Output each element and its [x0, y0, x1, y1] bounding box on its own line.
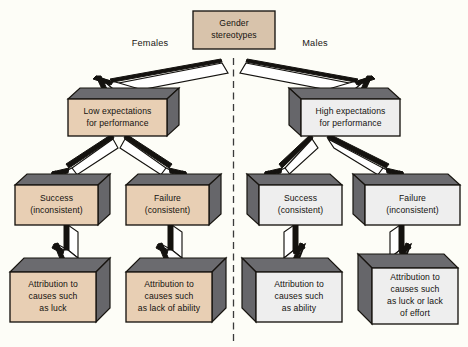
- node-attribution-luck-or-lack-of-effort-line-4: of effort: [400, 308, 430, 318]
- box-top-face: [126, 258, 226, 272]
- node-attribution-ability-line-1: Attribution to: [274, 279, 324, 289]
- node-attribution-ability-line-2: causes such: [275, 291, 324, 301]
- box-top-face: [126, 174, 221, 185]
- diagram-canvas: Females Males Gender stereotypes: [0, 0, 468, 347]
- node-male-failure: Failure (inconsistent): [353, 174, 460, 225]
- node-attribution-luck-or-lack-of-effort-line-3: as luck or lack: [387, 296, 444, 306]
- node-male-failure-line-2: (inconsistent): [386, 205, 439, 215]
- node-attribution-luck: Attribution to causes such as luck: [10, 258, 110, 322]
- node-attribution-ability-line-3: as ability: [282, 303, 317, 313]
- node-low-expectations: Low expectations for performance: [68, 88, 179, 136]
- node-female-failure-line-2: (consistent): [145, 205, 191, 215]
- node-attribution-ability: Attribution to causes such as ability: [242, 258, 342, 322]
- node-low-expectations-line-2: for performance: [86, 118, 148, 128]
- box-top-face: [247, 174, 342, 185]
- node-attribution-luck-line-1: Attribution to: [28, 279, 78, 289]
- branch-label-females: Females: [132, 38, 169, 48]
- node-attribution-lack-of-ability-line-3: as lack of ability: [138, 303, 201, 313]
- box-top-face: [10, 258, 110, 272]
- box-top-face: [242, 258, 342, 272]
- box-top-face: [15, 174, 110, 185]
- node-attribution-luck-or-lack-of-effort-line-2: causes such: [391, 284, 440, 294]
- node-attribution-lack-of-ability-line-2: causes such: [145, 291, 194, 301]
- node-male-success-line-1: Success: [284, 193, 317, 203]
- node-gender-stereotypes: Gender stereotypes: [193, 11, 275, 49]
- node-female-success-line-2: (inconsistent): [30, 205, 83, 215]
- node-high-expectations-line-2: for performance: [319, 118, 381, 128]
- box-top-face: [358, 254, 458, 268]
- box-top-face: [68, 88, 179, 99]
- node-low-expectations-line-1: Low expectations: [83, 106, 151, 116]
- node-female-success: Success (inconsistent): [15, 174, 110, 225]
- node-attribution-luck-or-lack-of-effort-line-1: Attribution to: [390, 272, 440, 282]
- box-top-face: [353, 174, 460, 185]
- node-gender-stereotypes-line-2: stereotypes: [211, 30, 257, 40]
- node-male-failure-line-1: Failure: [399, 193, 426, 203]
- node-attribution-luck-or-lack-of-effort: Attribution to causes such as luck or la…: [358, 254, 458, 324]
- node-attribution-luck-line-2: causes such: [29, 291, 78, 301]
- node-attribution-luck-line-3: as luck: [39, 303, 67, 313]
- box-top-face: [289, 88, 400, 99]
- node-high-expectations: High expectations for performance: [289, 88, 400, 136]
- gender-stereotype-attribution-flowchart: Females Males Gender stereotypes: [0, 0, 468, 347]
- node-attribution-lack-of-ability: Attribution to causes such as lack of ab…: [126, 258, 226, 322]
- node-male-success-line-2: (consistent): [278, 205, 324, 215]
- branch-label-males: Males: [302, 38, 328, 48]
- node-high-expectations-line-1: High expectations: [315, 106, 385, 116]
- node-male-success: Success (consistent): [247, 174, 342, 225]
- node-female-success-line-1: Success: [40, 193, 73, 203]
- node-female-failure-line-1: Failure: [154, 193, 181, 203]
- node-female-failure: Failure (consistent): [126, 174, 221, 225]
- node-gender-stereotypes-line-1: Gender: [219, 18, 248, 28]
- node-attribution-lack-of-ability-line-1: Attribution to: [144, 279, 194, 289]
